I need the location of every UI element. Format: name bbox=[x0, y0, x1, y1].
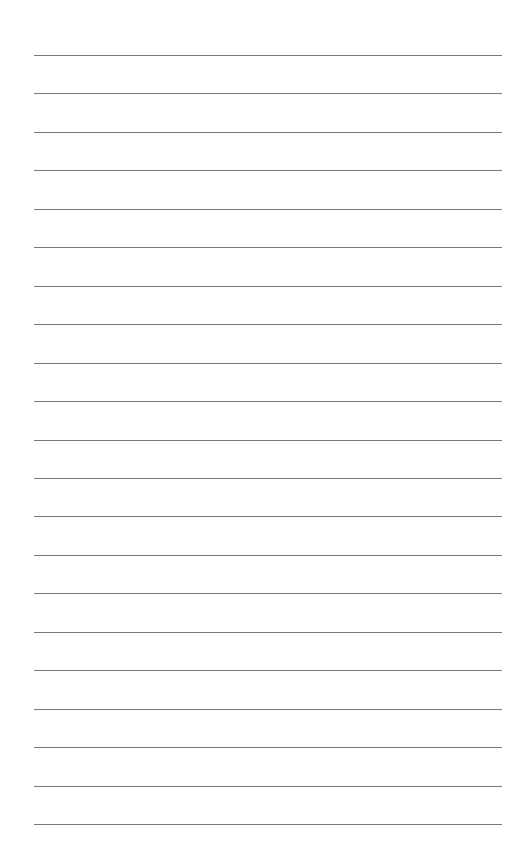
ruled-line bbox=[34, 93, 502, 94]
ruled-line bbox=[34, 516, 502, 517]
ruled-line bbox=[34, 401, 502, 402]
ruled-line bbox=[34, 593, 502, 594]
ruled-line bbox=[34, 747, 502, 748]
ruled-line bbox=[34, 286, 502, 287]
ruled-line bbox=[34, 363, 502, 364]
ruled-line bbox=[34, 170, 502, 171]
ruled-line bbox=[34, 132, 502, 133]
ruled-line bbox=[34, 247, 502, 248]
lined-paper-page bbox=[0, 0, 522, 867]
ruled-line bbox=[34, 555, 502, 556]
ruled-line bbox=[34, 670, 502, 671]
ruled-line bbox=[34, 324, 502, 325]
ruled-line bbox=[34, 632, 502, 633]
ruled-line bbox=[34, 824, 502, 825]
ruled-line bbox=[34, 209, 502, 210]
ruled-line bbox=[34, 709, 502, 710]
ruled-line bbox=[34, 55, 502, 56]
ruled-line bbox=[34, 440, 502, 441]
ruled-line bbox=[34, 478, 502, 479]
ruled-line bbox=[34, 786, 502, 787]
